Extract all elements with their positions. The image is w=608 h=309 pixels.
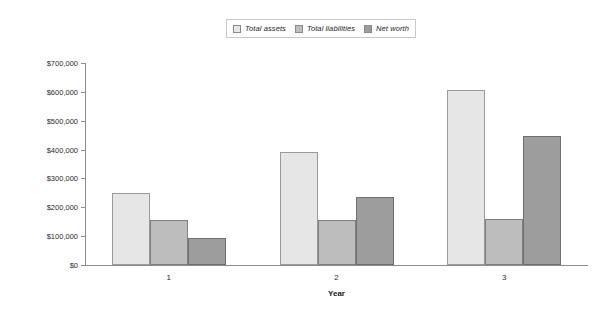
y-axis-tick-label: $600,000 (47, 87, 78, 96)
y-axis-tick-label: $400,000 (47, 145, 78, 154)
y-axis-tick (81, 178, 85, 179)
x-axis-line (85, 265, 588, 266)
bar (112, 193, 150, 265)
legend-swatch-icon (295, 25, 303, 33)
bar (150, 220, 188, 265)
y-axis-tick (81, 121, 85, 122)
y-axis-tick (81, 207, 85, 208)
y-axis-tick (81, 265, 85, 266)
y-axis-tick-label: $0 (70, 261, 78, 270)
legend-item-label: Total liabilities (307, 24, 355, 33)
plot-area: $0$100,000$200,000$300,000$400,000$500,0… (85, 63, 588, 265)
y-axis-tick-label: $100,000 (47, 232, 78, 241)
legend-item-label: Total assets (245, 24, 286, 33)
y-axis-tick-label: $200,000 (47, 203, 78, 212)
x-axis-category-label: 3 (502, 273, 506, 282)
y-axis-tick-label: $500,000 (47, 116, 78, 125)
bar (280, 152, 318, 265)
legend-item[interactable]: Net worth (364, 24, 409, 33)
x-axis-title: Year (85, 289, 588, 298)
bar (523, 136, 561, 265)
bar-chart: Total assetsTotal liabilitiesNet worth $… (0, 0, 608, 309)
y-axis-tick-label: $700,000 (47, 59, 78, 68)
legend-swatch-icon (364, 25, 372, 33)
y-axis-tick-label: $300,000 (47, 174, 78, 183)
bar (485, 219, 523, 265)
bar (188, 238, 226, 265)
chart-legend: Total assetsTotal liabilitiesNet worth (226, 19, 416, 38)
legend-item-label: Net worth (376, 24, 409, 33)
y-axis-tick (81, 236, 85, 237)
y-axis-line (85, 63, 86, 265)
bar (447, 90, 485, 265)
bar (318, 220, 356, 265)
x-axis-category-label: 1 (167, 273, 171, 282)
y-axis-tick (81, 150, 85, 151)
legend-swatch-icon (233, 25, 241, 33)
x-axis-category-label: 2 (334, 273, 338, 282)
bar (356, 197, 394, 265)
legend-item[interactable]: Total liabilities (295, 24, 355, 33)
y-axis-tick (81, 92, 85, 93)
y-axis-tick (81, 63, 85, 64)
legend-item[interactable]: Total assets (233, 24, 286, 33)
